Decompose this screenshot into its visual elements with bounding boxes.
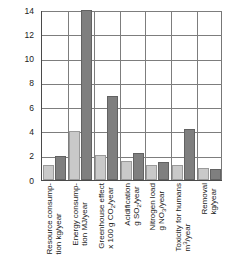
x-axis-label-line2: x 100 g CO2/year <box>105 183 115 249</box>
bar-group <box>68 11 94 180</box>
x-axis-label: Removalkg/year <box>200 183 218 215</box>
bar-group <box>42 11 68 180</box>
plot-area <box>41 11 222 181</box>
bar-group <box>119 11 145 180</box>
bar <box>158 162 169 180</box>
x-label-cell: Resource consump-tion kg/year <box>41 183 67 273</box>
x-label-cell: Acidificationg SO2/year <box>119 183 145 273</box>
x-label-cell: Removalkg/year <box>196 183 222 273</box>
y-tick-label: 8 <box>4 79 34 88</box>
bar <box>107 96 118 180</box>
x-axis-label-line2: kg/year <box>209 183 218 215</box>
x-axis-label-line1: Removal <box>200 183 209 215</box>
x-axis-label: Energy consump-tion MJ/year <box>71 183 89 246</box>
x-label-cell: Nitrogen loadg NO3/year <box>144 183 170 273</box>
x-axis-label-line1: Acidification <box>122 183 131 226</box>
x-axis-label-line2: m3/year <box>183 183 193 251</box>
y-tick-label: 2 <box>4 152 34 161</box>
y-tick-label: 12 <box>4 31 34 40</box>
bar <box>43 165 54 180</box>
y-tick-label: 10 <box>4 55 34 64</box>
x-axis-label-line2: g NO3/year <box>157 183 167 231</box>
x-axis-label-line2: tion kg/year <box>54 183 63 255</box>
x-axis-label: Greenhouse effectx 100 g CO2/year <box>96 183 115 249</box>
x-axis-label-line1: Energy consump- <box>71 183 80 246</box>
bar <box>146 165 157 180</box>
x-axis-label-line1: Resource consump- <box>45 183 54 255</box>
bar-group <box>196 11 222 180</box>
x-axis-label-line1: Nitrogen load <box>148 183 157 231</box>
bar-chart: 02468101214 Resource consump-tion kg/yea… <box>0 0 233 273</box>
x-axis-label: Toxicity for humansm3/year <box>174 183 193 251</box>
x-axis-label: Resource consump-tion kg/year <box>45 183 63 255</box>
x-axis-label-line1: Greenhouse effect <box>96 183 105 249</box>
bar <box>172 165 183 180</box>
y-tick-label: 14 <box>4 7 34 16</box>
bar-group <box>145 11 171 180</box>
bar <box>69 131 80 180</box>
x-axis-label-line2: tion MJ/year <box>80 183 89 246</box>
bar-group <box>171 11 197 180</box>
x-axis-category-labels: Resource consump-tion kg/yearEnergy cons… <box>41 183 222 273</box>
x-label-cell: Toxicity for humansm3/year <box>170 183 196 273</box>
y-tick-label: 4 <box>4 128 34 137</box>
x-axis-label: Nitrogen loadg NO3/year <box>148 183 167 231</box>
bar <box>121 161 132 180</box>
bar <box>55 156 66 180</box>
bar <box>81 10 92 180</box>
bar-group <box>93 11 119 180</box>
bar <box>133 153 144 180</box>
y-tick-label: 0 <box>4 177 34 186</box>
x-axis-label: Acidificationg SO2/year <box>122 183 141 226</box>
bar <box>184 129 195 180</box>
x-axis-label-line2: g SO2/year <box>131 183 141 226</box>
bar <box>95 155 106 181</box>
x-label-cell: Energy consump-tion MJ/year <box>67 183 93 273</box>
x-label-cell: Greenhouse effectx 100 g CO2/year <box>93 183 119 273</box>
bar-groups <box>42 11 222 180</box>
bar <box>210 169 221 180</box>
y-tick-label: 6 <box>4 104 34 113</box>
bar <box>198 168 209 180</box>
